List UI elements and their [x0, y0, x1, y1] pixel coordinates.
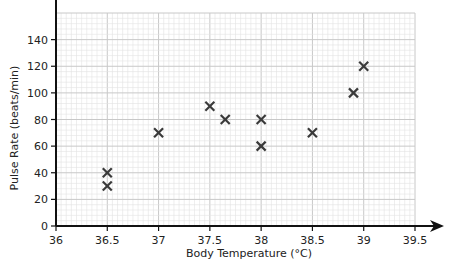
x-axis-ticks: 3636.53737.53838.53939.5 [49, 226, 427, 247]
axes [56, 0, 444, 232]
y-tick-label: 40 [34, 167, 48, 180]
y-axis-ticks: 020406080100120140 [27, 34, 56, 233]
x-tick-label: 38 [254, 234, 268, 247]
y-tick-label: 140 [27, 34, 48, 47]
x-axis-title: Body Temperature (°C) [186, 247, 312, 260]
x-tick-label: 37 [152, 234, 166, 247]
x-tick-label: 39 [357, 234, 371, 247]
scatter-chart: 3636.53737.53838.53939.5 020406080100120… [0, 0, 456, 274]
grid [56, 13, 415, 226]
y-tick-label: 60 [34, 140, 48, 153]
y-tick-label: 120 [27, 60, 48, 73]
y-tick-label: 20 [34, 193, 48, 206]
x-tick-label: 38.5 [300, 234, 325, 247]
x-tick-label: 39.5 [403, 234, 428, 247]
x-tick-label: 36 [49, 234, 63, 247]
x-tick-label: 37.5 [198, 234, 223, 247]
y-tick-label: 80 [34, 114, 48, 127]
y-tick-label: 100 [27, 87, 48, 100]
y-tick-label: 0 [41, 220, 48, 233]
x-tick-label: 36.5 [95, 234, 120, 247]
y-axis-title: Pulse Rate (beats/min) [8, 66, 21, 191]
